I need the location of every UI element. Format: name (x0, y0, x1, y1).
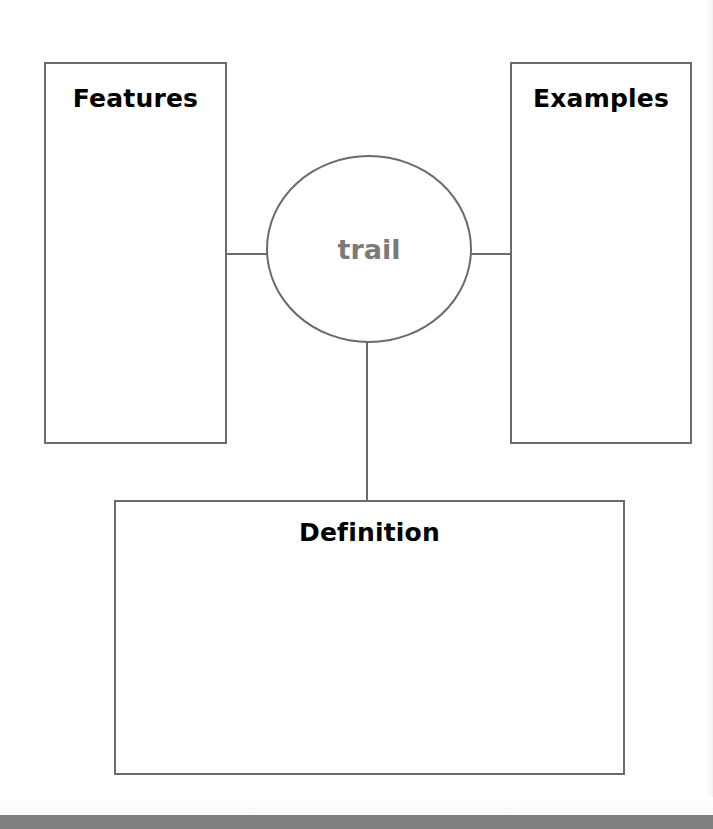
center-concept-node[interactable]: trail (266, 155, 472, 343)
bottom-bar (0, 815, 713, 829)
page-right-shading (703, 0, 713, 815)
page-bottom-shading (0, 797, 713, 815)
concept-map-worksheet: Features Examples Definition trail (0, 0, 713, 829)
examples-box-label: Examples (512, 84, 690, 113)
connector-center-to-definition (366, 336, 368, 502)
examples-box[interactable]: Examples (510, 62, 692, 444)
features-box[interactable]: Features (44, 62, 227, 444)
definition-box[interactable]: Definition (114, 500, 625, 775)
connector-examples-to-center (466, 253, 512, 255)
connector-features-to-center (226, 253, 272, 255)
definition-box-label: Definition (116, 518, 623, 547)
features-box-label: Features (46, 84, 225, 113)
center-concept-label: trail (338, 236, 401, 263)
